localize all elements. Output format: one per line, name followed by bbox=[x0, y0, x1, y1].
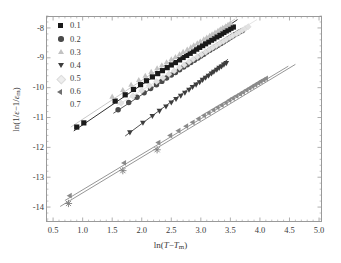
legend-marker bbox=[57, 89, 62, 95]
legend-label: 0.7 bbox=[70, 100, 81, 109]
triangle-up-icon bbox=[55, 46, 68, 57]
legend-item-0.2[interactable]: 0.2 bbox=[55, 32, 101, 45]
x-tick-label: 1.5 bbox=[97, 226, 127, 235]
legend-item-0.7[interactable]: 0.7 bbox=[55, 98, 101, 111]
y-title-var1: ε bbox=[11, 111, 21, 115]
x-tick-label: 1.0 bbox=[68, 226, 98, 235]
legend-item-0.4[interactable]: 0.4 bbox=[55, 59, 101, 72]
x-tick-label: 5.0 bbox=[304, 226, 334, 235]
legend-marker bbox=[58, 49, 64, 54]
x-axis-tick-labels: 0.51.01.52.02.53.03.54.04.55.0 bbox=[0, 226, 341, 240]
diamond-icon bbox=[55, 73, 68, 84]
y-tick-label: -14 bbox=[18, 203, 44, 212]
legend-marker bbox=[57, 74, 66, 83]
x-axis-title: ln(T−Tm) bbox=[0, 241, 341, 252]
legend-label: 0.2 bbox=[70, 35, 81, 44]
chart-legend: 0.10.20.30.40.50.60.7 bbox=[55, 19, 101, 111]
triangle-left-icon bbox=[55, 86, 68, 97]
legend-marker bbox=[58, 36, 64, 42]
chart-figure: -8-9-10-11-12-13-14 0.51.01.52.02.53.03.… bbox=[0, 0, 341, 263]
x-title-post: ) bbox=[184, 240, 187, 250]
x-title-pre: ln( bbox=[154, 240, 164, 250]
x-tick-label: 3.5 bbox=[215, 226, 245, 235]
legend-label: 0.3 bbox=[70, 48, 81, 57]
y-title-sub2: m bbox=[14, 90, 22, 95]
legend-item-0.5[interactable]: 0.5 bbox=[55, 72, 101, 85]
x-tick-label: 4.5 bbox=[274, 226, 304, 235]
legend-label: 0.6 bbox=[70, 87, 81, 96]
y-tick-label: -8 bbox=[18, 24, 44, 33]
legend-item-0.6[interactable]: 0.6 bbox=[55, 85, 101, 98]
star-icon bbox=[55, 99, 68, 110]
legend-label: 0.5 bbox=[70, 74, 81, 83]
x-tick-label: 2.0 bbox=[127, 226, 157, 235]
y-title-pre: ln(1/ bbox=[11, 115, 21, 132]
legend-item-0.3[interactable]: 0.3 bbox=[55, 45, 101, 58]
y-title-var2: ε bbox=[11, 96, 21, 100]
legend-marker bbox=[58, 63, 64, 68]
circle-icon bbox=[55, 33, 68, 44]
legend-marker bbox=[58, 23, 63, 28]
y-title-post: ) bbox=[11, 87, 21, 90]
x-tick-label: 2.5 bbox=[156, 226, 186, 235]
square-icon bbox=[55, 20, 68, 31]
legend-label: 0.4 bbox=[70, 61, 81, 70]
legend-item-0.1[interactable]: 0.1 bbox=[55, 19, 101, 32]
y-axis-title: ln(1/ε−1/εm) bbox=[12, 55, 23, 165]
y-tick-label: -13 bbox=[18, 173, 44, 182]
x-tick-label: 0.5 bbox=[38, 226, 68, 235]
x-tick-label: 3.0 bbox=[186, 226, 216, 235]
y-title-minus: −1/ bbox=[11, 99, 21, 111]
legend-label: 0.1 bbox=[70, 21, 81, 30]
triangle-down-icon bbox=[55, 60, 68, 71]
x-tick-label: 4.0 bbox=[245, 226, 275, 235]
